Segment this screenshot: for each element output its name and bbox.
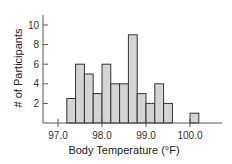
y-tick-label: 4 [33, 78, 39, 89]
histogram-bars [67, 35, 199, 123]
histogram-bar [76, 64, 85, 123]
y-axis-label: # of Participants [12, 28, 24, 107]
x-tick-label: 99.0 [136, 130, 156, 141]
histogram-bar [155, 84, 164, 123]
histogram-bar [146, 103, 155, 123]
y-tick-label: 8 [33, 39, 39, 50]
histogram-bar [111, 84, 120, 123]
histogram-bar [67, 99, 76, 124]
histogram-bar [93, 94, 102, 123]
x-axis-label: Body Temperature (°F) [68, 144, 179, 156]
histogram-bar [128, 35, 137, 123]
y-tick-label: 10 [28, 20, 40, 31]
y-tick-label: 6 [33, 59, 39, 70]
x-tick-label: 97.0 [48, 130, 68, 141]
y-axis-ticks: 246810 [28, 20, 48, 109]
y-tick-label: 2 [33, 98, 39, 109]
x-tick-label: 98.0 [92, 130, 112, 141]
histogram-bar [84, 74, 93, 123]
histogram-bar [102, 64, 111, 123]
histogram-bar [120, 84, 129, 123]
histogram-bar [190, 113, 199, 123]
x-tick-label: 100.0 [177, 130, 202, 141]
histogram-chart: 246810 97.098.099.0100.0 Body Temperatur… [0, 0, 232, 164]
histogram-bar [164, 103, 173, 123]
histogram-bar [137, 94, 146, 123]
